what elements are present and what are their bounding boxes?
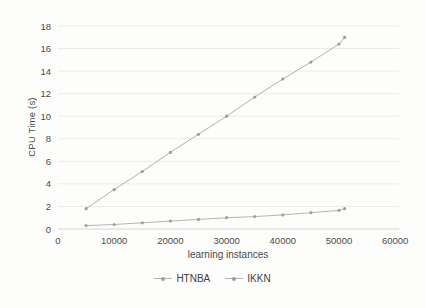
data-point-marker	[85, 207, 88, 210]
x-tick-label: 0	[55, 235, 60, 246]
data-point-marker	[309, 211, 312, 214]
y-tick-label: 4	[46, 178, 51, 189]
y-tick-label: 2	[46, 201, 51, 212]
data-point-marker	[113, 223, 116, 226]
data-point-marker	[337, 42, 340, 45]
x-tick-label: 60000	[382, 235, 408, 246]
y-tick-label: 6	[46, 156, 51, 167]
data-point-marker	[343, 207, 346, 210]
data-point-marker	[337, 209, 340, 212]
data-point-marker	[253, 215, 256, 218]
legend-label-ikkn: IKKN	[247, 273, 270, 284]
data-point-marker	[169, 151, 172, 154]
y-tick-label: 8	[46, 133, 51, 144]
x-tick-label: 20000	[157, 235, 183, 246]
data-point-marker	[197, 133, 200, 136]
y-tick-label: 16	[40, 43, 51, 54]
legend-item-ikkn: IKKN	[225, 273, 270, 284]
x-axis-title: learning instances	[188, 249, 269, 260]
y-tick-label: 18	[40, 21, 51, 32]
data-point-marker	[85, 224, 88, 227]
plot-area: 0246810121416180100002000030000400005000…	[0, 0, 425, 308]
data-point-marker	[225, 216, 228, 219]
x-tick-label: 30000	[213, 235, 239, 246]
data-point-marker	[253, 95, 256, 98]
data-point-marker	[309, 60, 312, 63]
legend-label-htnba: HTNBA	[176, 273, 210, 284]
data-point-marker	[281, 213, 284, 216]
legend-marker-ikkn-icon	[225, 275, 243, 282]
series-line-ikkn	[86, 37, 345, 208]
y-tick-label: 12	[40, 88, 51, 99]
legend-item-htnba: HTNBA	[154, 273, 210, 284]
x-tick-label: 50000	[326, 235, 352, 246]
legend-marker-htnba-icon	[154, 275, 172, 282]
data-point-marker	[141, 170, 144, 173]
data-point-marker	[169, 220, 172, 223]
data-point-marker	[197, 218, 200, 221]
data-point-marker	[113, 188, 116, 191]
y-tick-label: 14	[40, 66, 51, 77]
y-tick-label: 10	[40, 111, 51, 122]
series-line-htnba	[86, 209, 345, 226]
data-point-marker	[225, 115, 228, 118]
data-point-marker	[281, 77, 284, 80]
x-tick-label: 10000	[101, 235, 127, 246]
cpu-time-chart: 0246810121416180100002000030000400005000…	[0, 0, 425, 308]
x-tick-label: 40000	[270, 235, 296, 246]
legend: HTNBA IKKN	[0, 273, 425, 284]
data-point-marker	[141, 221, 144, 224]
y-tick-label: 0	[46, 224, 51, 235]
y-axis-title: CPU Time (s)	[26, 97, 37, 156]
data-point-marker	[343, 36, 346, 39]
